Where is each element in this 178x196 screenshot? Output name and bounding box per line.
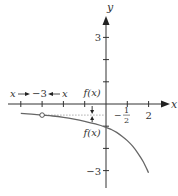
x-tick-label: 2 [145,110,151,121]
x-axis-label: x [171,98,178,111]
arrow-down-icon [90,110,94,114]
approach-annotation: x −3 x [10,88,68,99]
y-tick-label: 3 [95,32,101,43]
y-axis-label: y [106,1,114,14]
x-axis-arrow-icon [161,101,170,108]
function-graph: x y 23−3 −12 f(x) f(x) x −3 x [0,0,178,196]
approach-right-x: x [62,88,68,99]
function-curve [21,113,149,172]
tick-labels: 23−3 [86,32,152,176]
asymptote-label: −12 [114,106,129,125]
y-axis-arrow-icon [103,16,110,25]
approach-arrows [90,106,94,122]
fx-label-above: f(x) [83,87,101,98]
arrow-right-icon [25,92,30,96]
arrow-left-icon [48,92,53,96]
open-circle-hole [40,113,45,118]
arrow-up-icon [90,116,94,120]
approach-left-x: x [10,88,16,99]
fx-label-below: f(x) [83,127,101,138]
y-tick-label: −3 [86,166,101,177]
approach-target: −3 [32,88,47,99]
